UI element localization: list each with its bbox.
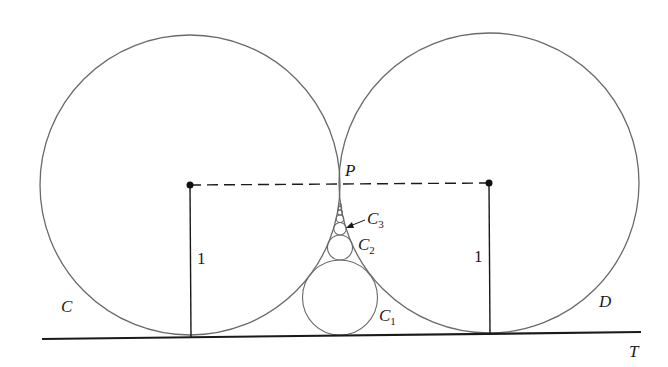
label-radius-left: 1: [197, 249, 206, 268]
circle-c3: [334, 223, 347, 236]
arrow-to-c3: [346, 220, 365, 228]
center-point-d: [486, 180, 493, 187]
label-c2: C2: [358, 235, 375, 256]
radius-right: [489, 183, 490, 333]
label-c3: C3: [367, 209, 384, 230]
label-p: P: [344, 161, 355, 180]
tangent-circles-diagram: P 1 1 C D T C1 C2 C3: [0, 0, 668, 367]
tangent-line-t: [42, 332, 641, 339]
center-point-c: [187, 182, 194, 189]
circle-c4: [336, 215, 344, 223]
label-radius-right: 1: [474, 247, 483, 266]
circle-c1: [303, 260, 378, 335]
circle-c2: [328, 235, 353, 260]
label-line-t: T: [629, 342, 640, 361]
label-c1: C1: [379, 306, 396, 327]
label-circle-c: C: [61, 297, 73, 316]
label-circle-d: D: [598, 292, 612, 311]
radius-left: [190, 185, 191, 337]
